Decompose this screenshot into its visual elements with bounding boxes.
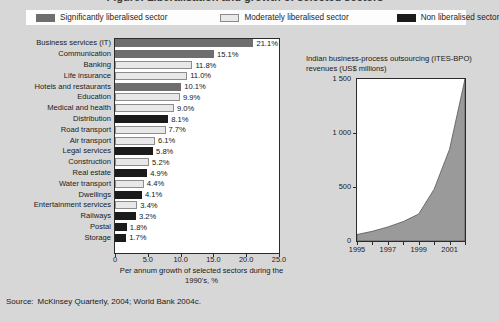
- bar-value-label: 15.1%: [217, 50, 239, 59]
- bar-row: Communication15.1%: [10, 49, 288, 60]
- area-chart-series-path: [357, 79, 465, 241]
- bar-track: 8.1%: [114, 114, 286, 125]
- legend-label-significant: Significantly liberalised sector: [60, 13, 167, 22]
- bar-track: 10.1%: [114, 81, 286, 92]
- bar-category-label: Education: [10, 93, 114, 101]
- bar-track: 21.1%: [114, 38, 286, 49]
- bar-fill: [115, 104, 174, 112]
- bar-value-label: 9.9%: [183, 93, 200, 102]
- source-text: McKinsey Quarterly, 2004; World Bank 200…: [38, 297, 201, 306]
- bar-x-tick-label: 10.0: [173, 256, 187, 264]
- bar-category-label: Real estate: [10, 169, 114, 177]
- bar-fill: [115, 169, 147, 177]
- bar-track: 11.8%: [114, 60, 286, 71]
- bar-row: Air transport6.1%: [10, 135, 288, 146]
- source-note: Source:McKinsey Quarterly, 2004; World B…: [6, 297, 201, 307]
- area-x-tick: [403, 242, 404, 245]
- legend-swatch-icon-non: [397, 14, 416, 22]
- bar-row: Water transport4.4%: [10, 178, 288, 189]
- bar-category-label: Legal services: [10, 147, 114, 155]
- area-y-tick-label: 500: [339, 183, 351, 191]
- legend-swatch-icon-significant: [36, 14, 55, 22]
- bar-fill: [115, 147, 153, 155]
- bar-track: 4.9%: [114, 168, 286, 179]
- bar-fill: [115, 126, 166, 134]
- legend-item-significantly-liberalised: Significantly liberalised sector: [36, 10, 167, 25]
- bar-track: 5.2%: [114, 157, 286, 168]
- bar-value-label: 9.0%: [177, 104, 194, 113]
- bar-category-label: Communication: [10, 50, 114, 58]
- bar-value-label: 3.4%: [140, 201, 157, 210]
- bar-row: Storage1.7%: [10, 232, 288, 243]
- bar-value-label: 1.7%: [129, 233, 146, 242]
- bar-value-label: 5.8%: [156, 147, 173, 156]
- bar-value-label: 5.2%: [152, 158, 169, 167]
- bar-value-label: 6.1%: [158, 136, 175, 145]
- figure-title: Figure: Liberalisation and growth of sel…: [0, 0, 490, 3]
- bar-row: Education9.9%: [10, 92, 288, 103]
- bar-track: 1.8%: [114, 222, 286, 233]
- area-x-tick-label: 1997: [380, 246, 396, 254]
- legend-item-non-liberalised: Non liberalised sector: [397, 10, 499, 25]
- bar-track: 5.8%: [114, 146, 286, 157]
- bar-row: Legal services5.8%: [10, 146, 288, 157]
- bar-row: Banking11.8%: [10, 60, 288, 71]
- area-x-tick-label: 2001: [441, 246, 457, 254]
- area-x-tick-label: 1999: [410, 246, 426, 254]
- bar-category-label: Water transport: [10, 180, 114, 188]
- bar-value-label: 11.8%: [195, 61, 216, 70]
- bar-fill: [115, 61, 192, 69]
- bar-fill: [115, 212, 136, 220]
- bar-category-label: Dwellings: [10, 191, 114, 199]
- bar-category-label: Storage: [10, 234, 114, 242]
- bar-category-label: Air transport: [10, 137, 114, 145]
- bar-category-label: Business services (IT): [10, 39, 114, 47]
- bar-value-label: 21.1%: [256, 39, 278, 48]
- bar-track: 11.0%: [114, 70, 286, 81]
- bar-row: Postal1.8%: [10, 222, 288, 233]
- area-chart-plot-wrap: 05001 0001 5001995199719992001: [356, 78, 466, 242]
- bar-chart-rows: Business services (IT)21.1%Communication…: [10, 38, 288, 254]
- bar-category-label: Banking: [10, 61, 114, 69]
- bar-track: 3.4%: [114, 200, 286, 211]
- area-x-tick: [372, 242, 373, 245]
- bar-track: 7.7%: [114, 124, 286, 135]
- bar-row: Real estate4.9%: [10, 168, 288, 179]
- bar-category-label: Medical and health: [10, 104, 114, 112]
- bar-track: 15.1%: [114, 49, 286, 60]
- source-label: Source:: [6, 297, 34, 306]
- bar-value-label: 8.1%: [171, 115, 188, 124]
- bar-fill: [115, 201, 137, 209]
- bar-value-label: 3.2%: [139, 212, 156, 221]
- bar-x-tick-label: 5.0: [143, 256, 153, 264]
- area-chart: Indian business-process outsourcing (ITE…: [300, 54, 482, 264]
- bar-track: 9.9%: [114, 92, 286, 103]
- bar-x-tick-label: 25.0: [272, 256, 286, 264]
- bar-track: 9.0%: [114, 103, 286, 114]
- bar-x-tick-label: 15.0: [206, 256, 220, 264]
- bar-category-label: Road transport: [10, 126, 114, 134]
- bar-value-label: 11.0%: [190, 71, 211, 80]
- bar-row: Railways3.2%: [10, 211, 288, 222]
- area-y-tick-label: 1 500: [333, 75, 352, 83]
- chart-legend: Significantly liberalised sector Moderat…: [26, 10, 466, 25]
- bar-chart: Business services (IT)21.1%Communication…: [10, 38, 288, 288]
- bar-fill: [115, 137, 155, 145]
- area-y-tick: [353, 133, 356, 134]
- bar-fill: [115, 191, 142, 199]
- area-chart-series-svg: [357, 79, 465, 241]
- bar-track: 6.1%: [114, 135, 286, 146]
- bar-track: 3.2%: [114, 211, 286, 222]
- bar-fill: [115, 158, 149, 166]
- bar-row: Distribution8.1%: [10, 114, 288, 125]
- bar-fill: [115, 115, 168, 123]
- bar-value-label: 4.4%: [147, 179, 164, 188]
- bar-row: Entertainment services3.4%: [10, 200, 288, 211]
- bar-fill: [115, 93, 180, 101]
- area-x-tick: [465, 242, 466, 245]
- bar-fill: [115, 180, 144, 188]
- bar-row: Dwellings4.1%: [10, 189, 288, 200]
- bar-chart-x-axis: 05.010.015.020.025.0: [114, 254, 280, 264]
- legend-item-moderately-liberalised: Moderately liberalised sector: [220, 10, 348, 25]
- bar-value-label: 1.8%: [130, 223, 147, 232]
